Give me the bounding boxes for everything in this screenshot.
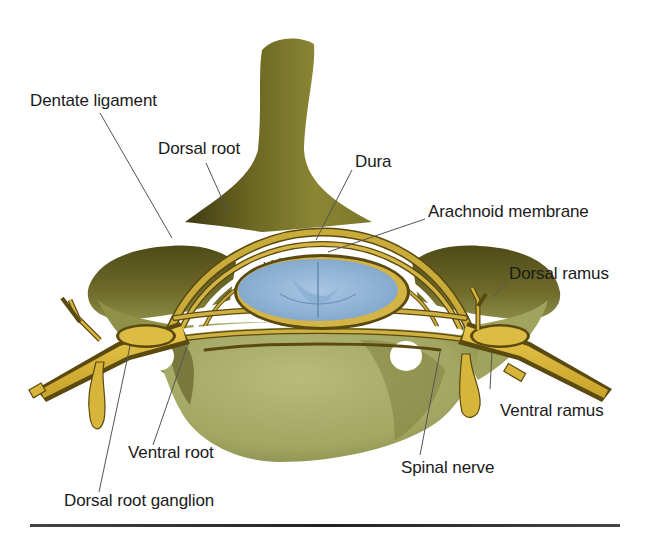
label-dorsal-root-ganglion: Dorsal root ganglion [64,492,214,509]
label-ventral-root: Ventral root [128,444,214,461]
label-dura: Dura [355,153,391,170]
label-dentate-ligament: Dentate ligament [30,92,157,109]
spinous-process [185,39,372,232]
spinal-cord [234,254,410,330]
label-arachnoid-membrane: Arachnoid membrane [428,203,589,220]
label-dorsal-ramus: Dorsal ramus [509,265,609,282]
bottom-divider [30,524,620,527]
label-ventral-ramus: Ventral ramus [500,402,604,419]
label-dorsal-root: Dorsal root [158,140,240,157]
label-spinal-nerve: Spinal nerve [401,459,494,476]
